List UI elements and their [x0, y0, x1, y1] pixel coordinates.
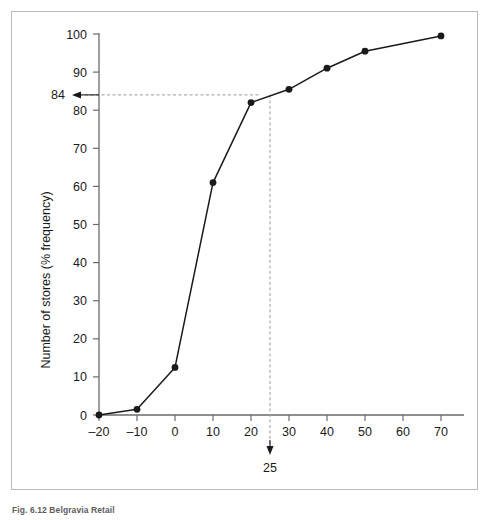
data-point: [96, 412, 103, 419]
y-tick-label-10: 10: [73, 370, 87, 384]
data-point: [324, 65, 331, 72]
figure-caption: Fig. 6.12 Belgravia Retail: [12, 505, 472, 519]
x-axis-tick-labels: –20 –10 0 10 20 30 40 50 60 70: [89, 425, 448, 439]
y-tick-label-80: 80: [73, 104, 87, 118]
y-tick-label-90: 90: [73, 66, 87, 80]
annotation-label-25: 25: [263, 461, 277, 475]
figure-frame: 0 10 20 30 40 50 60 70 80 90 100: [11, 11, 478, 490]
x-tick-label-neg10: –10: [127, 425, 148, 439]
x-tick-label-20: 20: [244, 425, 258, 439]
x-tick-label-0: 0: [172, 425, 179, 439]
data-point: [362, 48, 369, 55]
y-tick-label-20: 20: [73, 332, 87, 346]
y-tick-label-50: 50: [73, 218, 87, 232]
data-point: [210, 179, 217, 186]
x-tick-label-neg20: –20: [89, 425, 110, 439]
x-tick-label-50: 50: [358, 425, 372, 439]
axes-group: [99, 33, 464, 415]
data-point: [286, 86, 293, 93]
data-point: [172, 364, 179, 371]
y-tick-label-100: 100: [66, 28, 87, 42]
data-point: [134, 406, 141, 413]
data-point: [248, 99, 255, 106]
y-axis-ticks: [93, 34, 99, 415]
cumulative-frequency-chart: 0 10 20 30 40 50 60 70 80 90 100: [12, 12, 477, 489]
y-axis-title: Number of stores (% frequency): [39, 191, 53, 368]
x-axis-title: Profits (£000s): [229, 488, 310, 489]
y-tick-label-60: 60: [73, 180, 87, 194]
y-axis-tick-labels: 0 10 20 30 40 50 60 70 80 90 100: [66, 28, 87, 423]
page-canvas: 0 10 20 30 40 50 60 70 80 90 100: [0, 0, 497, 520]
readoff-guides: [72, 91, 274, 455]
annotation-label-84: 84: [51, 88, 65, 102]
data-series-line: [99, 36, 441, 415]
y-tick-label-40: 40: [73, 256, 87, 270]
cumulative-frequency-polyline: [99, 36, 441, 415]
y-tick-label-70: 70: [73, 142, 87, 156]
y-tick-label-30: 30: [73, 294, 87, 308]
x-tick-label-60: 60: [396, 425, 410, 439]
data-point: [438, 33, 445, 40]
x-tick-label-10: 10: [206, 425, 220, 439]
x-tick-label-30: 30: [282, 425, 296, 439]
y-tick-label-0: 0: [80, 409, 87, 423]
x-tick-label-40: 40: [320, 425, 334, 439]
x-tick-label-70: 70: [434, 425, 448, 439]
